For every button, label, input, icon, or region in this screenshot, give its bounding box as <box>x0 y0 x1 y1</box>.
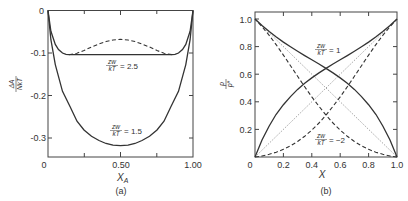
panel-b-ytick-5: 1.0 <box>239 15 252 25</box>
svg-text:zw: zw <box>107 58 117 65</box>
panel-b-annotation-1: zw kT = 1 <box>315 42 341 56</box>
panel-b-frame <box>255 12 397 157</box>
panel-b-ylabel: p p* <box>218 79 234 89</box>
panel-a-ytick-2: -0.2 <box>30 91 46 101</box>
panel-a-ytick-1: -0.1 <box>30 48 46 58</box>
panel-b-y-ticks <box>255 19 397 129</box>
panel-a-xtick-2: 1.00 <box>184 160 202 170</box>
svg-text:p*: p* <box>226 80 234 88</box>
svg-text:kT: kT <box>317 139 325 146</box>
panel-b-ytick-4: 0.8 <box>239 42 252 52</box>
panel-a: 0 -0.1 -0.2 -0.3 0 0.50 1.00 XA (a) ΔA N… <box>8 6 202 196</box>
panel-b-x-ticks <box>283 12 368 157</box>
panel-b-annotation-neg2: zw kT = −2 <box>315 132 346 146</box>
svg-text:zw: zw <box>316 42 326 49</box>
panel-b-xtick-0: 0 <box>247 160 252 170</box>
svg-text:= 1.5: = 1.5 <box>124 127 143 136</box>
panel-b-xtick-2: 0.4 <box>306 160 319 170</box>
svg-text:zw: zw <box>111 123 121 130</box>
panel-b-ytick-3: 0.6 <box>239 70 252 80</box>
panel-a-xtick-0: 0 <box>41 160 46 170</box>
panel-a-xlabel: XA <box>116 172 129 184</box>
svg-text:= 1: = 1 <box>329 46 341 55</box>
panel-a-annotation-2.5: zw kT = 2.5 <box>106 58 139 72</box>
svg-text:zw: zw <box>316 132 326 139</box>
panel-a-xlabel-sub: A <box>123 177 129 184</box>
curve-zw-2.5-unstable <box>69 39 172 54</box>
panel-b-xtick-3: 0.6 <box>334 160 347 170</box>
figure: 0 -0.1 -0.2 -0.3 0 0.50 1.00 XA (a) ΔA N… <box>0 0 408 201</box>
svg-text:NkT: NkT <box>16 77 23 90</box>
svg-text:p: p <box>218 82 226 87</box>
panel-b-ytick-1: 0.2 <box>239 125 252 135</box>
panel-a-ytick-0: 0 <box>39 6 44 16</box>
panel-a-x-ticks <box>84 11 157 158</box>
curve-zw-2.5-stable <box>48 11 193 55</box>
panel-a-ytick-3: -0.3 <box>30 133 46 143</box>
svg-text:kT: kT <box>108 65 116 72</box>
svg-text:ΔA: ΔA <box>8 80 15 90</box>
panel-b-xlabel: X <box>318 169 326 180</box>
svg-text:kT: kT <box>112 130 120 137</box>
panel-b-xtick-5: 1.0 <box>391 160 404 170</box>
panel-b-xtick-4: 0.8 <box>362 160 375 170</box>
svg-text:kT: kT <box>317 49 325 56</box>
panel-b-ytick-2: 0.4 <box>239 97 252 107</box>
panel-a-caption: (a) <box>116 186 127 196</box>
panel-a-annotation-1.5: zw kT = 1.5 <box>110 123 143 137</box>
svg-text:= 2.5: = 2.5 <box>120 62 139 71</box>
svg-text:= −2: = −2 <box>329 136 346 145</box>
panel-b-caption: (b) <box>321 186 332 196</box>
panel-a-ylabel: ΔA NkT <box>8 76 23 92</box>
curve-zw-1.5 <box>48 11 193 146</box>
panel-a-frame <box>48 11 193 158</box>
panel-b-xtick-1: 0.2 <box>277 160 290 170</box>
panel-a-xtick-1: 0.50 <box>112 160 130 170</box>
panel-b: 0.2 0.4 0.6 0.8 1.0 0 0.2 0.4 0.6 0.8 1.… <box>218 12 403 196</box>
